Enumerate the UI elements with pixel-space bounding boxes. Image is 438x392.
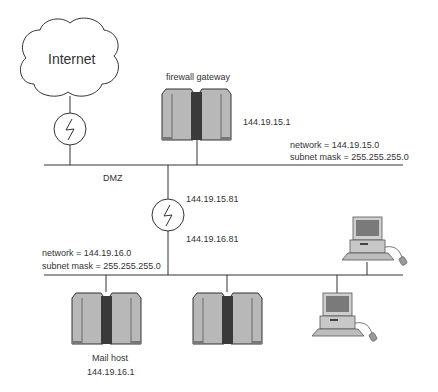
router-icon — [152, 199, 184, 231]
router-icon — [54, 113, 86, 145]
firewall-label: firewall gateway — [166, 72, 230, 83]
dmz-network: network = 144.19.15.0 — [290, 140, 379, 151]
router-ip-upper: 144.19.15.81 — [186, 194, 239, 205]
mail-host-ip: 144.19.16.1 — [87, 367, 135, 378]
internet-label: Internet — [48, 54, 95, 65]
firewall-server-icon — [162, 89, 231, 140]
workstation-icon — [312, 293, 378, 342]
firewall-ip: 144.19.15.1 — [243, 117, 291, 128]
mail-host-label: Mail host — [92, 353, 128, 364]
dmz-label: DMZ — [103, 173, 123, 184]
lan-subnet: subnet mask = 255.255.255.0 — [42, 261, 161, 272]
dmz-subnet: subnet mask = 255.255.255.0 — [290, 152, 409, 163]
lan-network: network = 144.19.16.0 — [42, 248, 131, 259]
workstation-icon — [342, 217, 408, 266]
server-icon — [193, 293, 262, 344]
router-ip-lower: 144.19.16.81 — [186, 234, 239, 245]
mail-host-server-icon — [72, 293, 141, 344]
